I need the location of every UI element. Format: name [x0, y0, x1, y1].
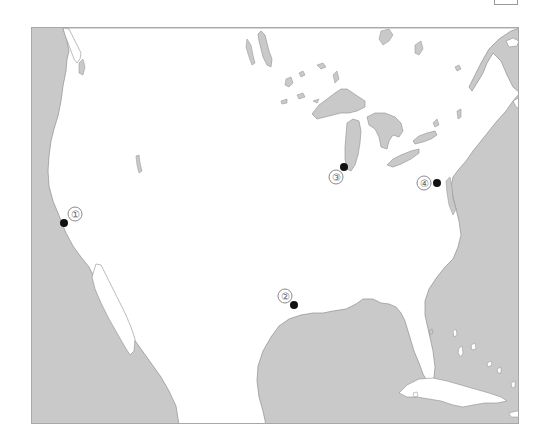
- location-marker-2[interactable]: [290, 301, 298, 309]
- map-svg: [32, 28, 519, 424]
- map-frame: [31, 27, 519, 424]
- corner-box: [494, 0, 518, 5]
- marker-label-3: ③: [329, 170, 344, 185]
- marker-label-1: ①: [68, 207, 83, 222]
- location-marker-1[interactable]: [60, 219, 68, 227]
- location-marker-4[interactable]: [433, 179, 441, 187]
- marker-label-2: ②: [278, 289, 293, 304]
- marker-label-4: ④: [417, 176, 432, 191]
- location-marker-3[interactable]: [340, 163, 348, 171]
- land-isle-of-youth: [413, 392, 418, 397]
